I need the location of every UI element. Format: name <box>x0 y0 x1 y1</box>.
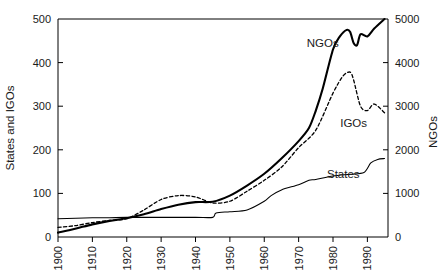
x-tick-label: 1960 <box>258 246 270 270</box>
series-annotation-states: States <box>327 168 360 180</box>
y-tick-label-right: 2000 <box>395 144 419 156</box>
x-tick-label: 1930 <box>155 246 167 270</box>
y-tick-label-left: 400 <box>33 57 51 69</box>
x-tick-label: 1910 <box>86 246 98 270</box>
y-tick-label-right: 4000 <box>395 57 419 69</box>
x-tick-label: 1950 <box>224 246 236 270</box>
series-annotation-ngos: NGOs <box>307 37 339 49</box>
x-tick-label: 1900 <box>52 246 64 270</box>
y-tick-label-left: 200 <box>33 144 51 156</box>
chart-container: 1900191019201930194019501960197019801990… <box>0 0 446 279</box>
x-tick-label: 1980 <box>327 246 339 270</box>
right-axis-title: NGOs <box>427 116 439 148</box>
y-tick-label-right: 1000 <box>395 187 419 199</box>
x-tick-label: 1920 <box>121 246 133 270</box>
y-tick-label-right: 5000 <box>395 13 419 25</box>
x-tick-label: 1990 <box>361 246 373 270</box>
y-tick-label-right: 0 <box>395 231 401 243</box>
x-tick-label: 1940 <box>190 246 202 270</box>
y-tick-label-left: 300 <box>33 100 51 112</box>
left-axis-title: States and IGOs <box>4 85 16 170</box>
y-tick-label-left: 500 <box>33 13 51 25</box>
line-chart: 1900191019201930194019501960197019801990… <box>0 0 446 279</box>
series-annotation-igos: IGOs <box>340 117 367 129</box>
y-tick-label-left: 100 <box>33 187 51 199</box>
x-tick-label: 1970 <box>293 246 305 270</box>
y-tick-label-left: 0 <box>45 231 51 243</box>
y-tick-label-right: 3000 <box>395 100 419 112</box>
